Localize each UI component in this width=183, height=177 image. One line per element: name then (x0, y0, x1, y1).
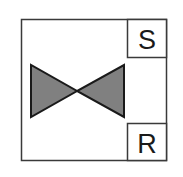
set-label: S (138, 25, 156, 55)
valve-bowtie-icon (31, 65, 124, 117)
valve-diagram: S R (0, 0, 183, 177)
set-box: S (128, 20, 167, 58)
valve-right-triangle (77, 65, 124, 117)
reset-label: R (137, 129, 157, 159)
reset-box: R (128, 124, 167, 161)
valve-left-triangle (31, 65, 77, 117)
